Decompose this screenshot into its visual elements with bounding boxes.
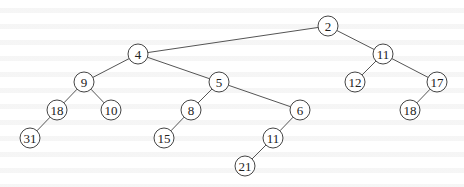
node-label: 11 [267,131,280,146]
node-label: 18 [404,103,417,118]
tree-edge-2-to-4 [148,27,318,52]
tree-edge-17-to-18 [417,89,430,103]
tree-node: 11 [373,44,393,64]
tree-edge-4-to-9 [93,59,129,78]
tree-node: 21 [235,156,255,176]
node-label: 4 [135,47,142,62]
tree-edge-4-to-5 [147,57,209,78]
node-label: 12 [349,75,362,90]
tree-edge-9-to-10 [91,89,104,103]
node-label: 8 [188,103,195,118]
tree-edge-6-to-11 [280,117,293,131]
tree-edge-2-to-11 [337,31,374,50]
tree-edge-11-to-17 [392,59,428,78]
node-label: 11 [377,47,390,62]
node-label: 21 [239,159,252,174]
node-label: 9 [81,75,88,90]
tree-node: 10 [101,100,121,120]
tree-node: 31 [20,128,40,148]
node-label: 18 [51,103,64,118]
node-label: 15 [158,131,171,146]
tree-edge-11-to-21 [252,145,266,159]
tree-node: 9 [74,72,94,92]
tree-edge-5-to-8 [198,89,212,103]
node-label: 6 [297,103,304,118]
tree-node: 11 [263,128,283,148]
tree-edge-18-to-31 [37,117,50,131]
tree-node: 15 [154,128,174,148]
tree-node: 18 [400,100,420,120]
tree-node: 12 [345,72,365,92]
node-label: 10 [105,103,118,118]
node-label: 17 [431,75,445,90]
tree-edges [37,27,430,158]
tree-edge-9-to-18 [64,89,77,103]
tree-node: 4 [128,44,148,64]
node-label: 31 [24,131,37,146]
tree-node: 17 [427,72,447,92]
node-label: 5 [216,75,223,90]
tree-edge-8-to-15 [171,117,184,131]
tree-node: 18 [47,100,67,120]
tree-edge-11-to-12 [362,61,376,75]
tree-node: 2 [318,16,338,36]
binary-tree-diagram: 24119512171810861831151121 [0,0,464,187]
node-label: 2 [325,19,332,34]
tree-node: 6 [290,100,310,120]
tree-node: 5 [209,72,229,92]
tree-node: 8 [181,100,201,120]
tree-edge-5-to-6 [228,85,290,106]
